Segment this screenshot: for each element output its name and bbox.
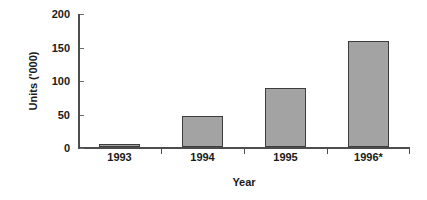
x-axis-title: Year	[78, 176, 410, 188]
bar	[265, 88, 307, 147]
y-axis-tick-labels: 050100150200	[40, 8, 74, 148]
y-axis-tick-label: 0	[64, 142, 70, 154]
y-axis-tick-label: 150	[52, 42, 70, 54]
y-axis-tick-label: 50	[58, 109, 70, 121]
bar-chart-figure: Units ('000) 050100150200 19931994199519…	[0, 0, 427, 200]
y-axis-tick-mark	[80, 148, 84, 149]
plot-area	[78, 14, 410, 148]
x-axis-tick-label: 1996*	[354, 151, 383, 163]
x-axis-tick-label: 1993	[107, 151, 131, 163]
bar	[99, 144, 141, 147]
x-axis-tick-labels: 1993199419951996*	[78, 151, 410, 167]
bars-group	[78, 14, 410, 148]
bar	[182, 116, 224, 147]
bar	[348, 41, 390, 147]
y-axis-tick-label: 100	[52, 75, 70, 87]
x-axis-tick-label: 1995	[273, 151, 297, 163]
y-axis-tick-label: 200	[52, 8, 70, 20]
x-axis-tick-label: 1994	[190, 151, 214, 163]
